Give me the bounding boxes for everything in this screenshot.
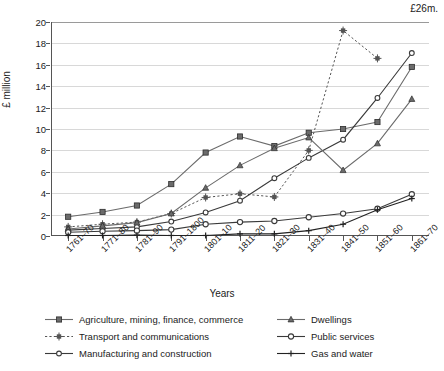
data-point-plus — [168, 232, 174, 238]
data-point-circle — [272, 176, 277, 181]
data-point-open-circle — [288, 334, 293, 339]
chart-figure: £26m. 02468101214161820 £ million 1761–7… — [0, 0, 444, 371]
data-point-open-circle — [169, 227, 174, 232]
data-point-star — [305, 146, 313, 154]
data-point-square — [134, 203, 139, 208]
data-point-star — [236, 190, 244, 198]
y-axis-tick-mark — [46, 129, 50, 130]
series-1 — [64, 27, 381, 231]
y-axis-tick-mark — [46, 108, 50, 109]
data-point-circle — [341, 137, 346, 142]
x-axis-tick-mark — [309, 236, 310, 241]
data-point-triangle — [203, 185, 209, 191]
y-axis-tick-mark — [46, 22, 50, 23]
data-point-plus — [134, 232, 140, 238]
data-point-circle — [306, 155, 311, 160]
y-axis-tick-label: 18 — [35, 38, 46, 49]
y-axis-tick-labels: 02468101214161820 — [22, 22, 46, 236]
legend-item[interactable]: Dwellings — [276, 314, 436, 325]
data-point-plus — [203, 232, 209, 238]
data-point-square — [237, 134, 242, 139]
legend-swatch-plus-icon — [276, 348, 306, 359]
y-axis-tick-label: 10 — [35, 124, 46, 135]
y-axis-tick-mark — [46, 236, 50, 237]
y-axis-tick-label: 14 — [35, 81, 46, 92]
data-point-square — [169, 182, 174, 187]
x-axis-tick-mark — [412, 236, 413, 241]
y-axis-tick-label: 16 — [35, 59, 46, 70]
y-axis-tick-mark — [46, 193, 50, 194]
legend-swatch-open-circle-icon — [276, 331, 306, 342]
y-axis-tick-mark — [46, 43, 50, 44]
series-line — [68, 31, 377, 227]
data-point-triangle — [409, 96, 415, 102]
legend-swatch-circle-icon — [44, 348, 74, 359]
legend-swatch-star-icon — [44, 331, 74, 342]
data-point-open-circle — [306, 215, 311, 220]
data-point-square — [100, 209, 105, 214]
data-point-open-circle — [237, 219, 242, 224]
legend-item-label: Public services — [311, 332, 374, 342]
legend-item[interactable]: Public services — [276, 331, 436, 342]
legend-item-label: Transport and communications — [79, 332, 209, 342]
data-point-plus — [340, 221, 346, 227]
legend-swatch-triangle-icon — [276, 314, 306, 325]
legend-item[interactable]: Agriculture, mining, finance, commerce — [44, 314, 276, 325]
data-point-star — [270, 193, 278, 201]
legend-swatch-square-icon — [44, 314, 74, 325]
data-point-circle — [238, 198, 243, 203]
y-axis-tick-mark — [46, 150, 50, 151]
data-point-open-circle — [340, 211, 345, 216]
data-point-plus — [271, 231, 277, 237]
legend-item-label: Agriculture, mining, finance, commerce — [79, 315, 243, 325]
series-2 — [66, 51, 414, 233]
data-point-square — [56, 317, 61, 322]
y-axis-tick-mark — [46, 215, 50, 216]
data-point-plus — [237, 231, 243, 237]
y-axis-title: £ million — [1, 40, 12, 140]
data-point-star — [373, 54, 381, 62]
legend-item-label: Gas and water — [311, 349, 373, 359]
data-point-triangle — [237, 162, 243, 168]
legend-item[interactable]: Transport and communications — [44, 331, 276, 342]
y-axis-tick-mark — [46, 172, 50, 173]
data-point-square — [409, 64, 414, 69]
chart-legend: Agriculture, mining, finance, commerceDw… — [44, 311, 436, 363]
legend-item-label: Dwellings — [311, 315, 352, 325]
data-point-circle — [375, 96, 380, 101]
data-point-circle — [169, 219, 174, 224]
data-point-open-circle — [272, 218, 277, 223]
y-axis-tick-mark — [46, 65, 50, 66]
data-point-star — [202, 193, 210, 201]
data-point-plus — [306, 228, 312, 234]
series-layer — [51, 22, 429, 236]
legend-item[interactable]: Manufacturing and construction — [44, 348, 276, 359]
data-point-square — [375, 119, 380, 124]
data-point-square — [66, 214, 71, 219]
y-axis-tick-label: 12 — [35, 102, 46, 113]
data-point-circle — [203, 210, 208, 215]
data-point-square — [203, 150, 208, 155]
chart-annotation: £26m. — [410, 3, 438, 14]
data-point-star — [55, 333, 63, 341]
data-point-square — [340, 126, 345, 131]
data-point-circle — [409, 51, 414, 56]
y-axis-tick-label: 20 — [35, 17, 46, 28]
plot-area — [51, 22, 429, 236]
data-point-plus — [288, 351, 294, 357]
x-axis-title: Years — [0, 288, 444, 299]
legend-item-label: Manufacturing and construction — [79, 349, 212, 359]
legend-item[interactable]: Gas and water — [276, 348, 436, 359]
y-axis-tick-mark — [46, 86, 50, 87]
data-point-circle — [57, 351, 62, 356]
